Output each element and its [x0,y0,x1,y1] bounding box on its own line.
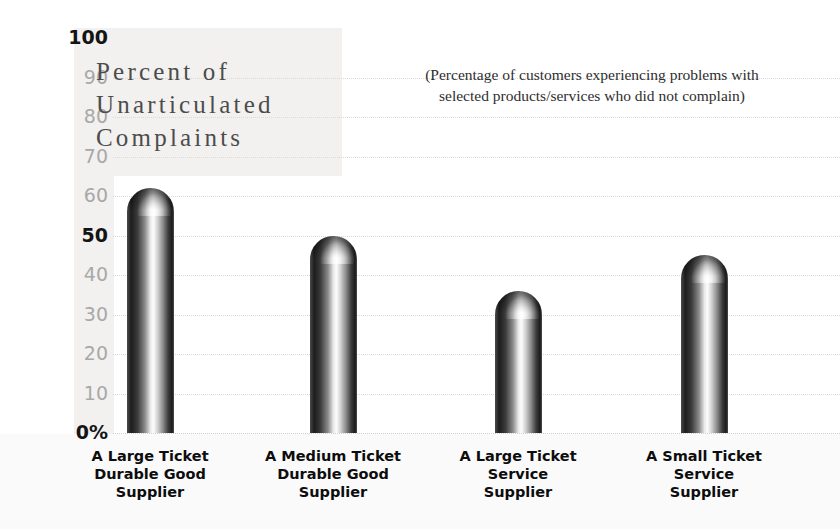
chart-title-line-2: Unarticulated [96,88,346,121]
bar-2 [310,236,357,434]
x-axis-label-1: A Large TicketDurable GoodSupplier [45,447,255,501]
x-axis-label-4-line-1: A Small Ticket [599,447,809,465]
bar-rounded-cap-3 [495,291,542,319]
x-axis-label-1-line-2: Durable Good [45,465,255,483]
bar-4 [681,255,728,433]
x-axis-label-3-line-3: Supplier [413,483,623,501]
x-axis-label-3-line-1: A Large Ticket [413,447,623,465]
gridline-70 [113,157,840,158]
x-axis-label-2-line-1: A Medium Ticket [228,447,438,465]
x-axis-label-3-line-2: Service [413,465,623,483]
y-axis-tick-0: 0% [62,423,108,442]
x-axis-label-4: A Small TicketServiceSupplier [599,447,809,501]
gridline-50 [113,236,840,237]
y-axis-tick-50: 50 [62,226,108,245]
chart-title: Percent of Unarticulated Complaints [96,55,346,154]
bar-rounded-cap-1 [127,188,174,216]
y-axis-tick-60: 60 [62,186,108,205]
y-axis-tick-10: 10 [62,384,108,403]
bar-rounded-cap-2 [310,236,357,264]
x-axis-label-4-line-2: Service [599,465,809,483]
x-axis-label-3: A Large TicketServiceSupplier [413,447,623,501]
y-axis-tick-30: 30 [62,305,108,324]
gridline-10 [113,394,840,395]
x-axis-label-4-line-3: Supplier [599,483,809,501]
bar-1 [127,188,174,433]
chart-title-line-3: Complaints [96,121,346,154]
x-axis-label-2: A Medium TicketDurable GoodSupplier [228,447,438,501]
gridline-0 [113,433,840,434]
chart-subtitle-line-2: selected products/services who did not c… [396,85,788,106]
gridline-30 [113,315,840,316]
gridline-60 [113,196,840,197]
chart-container: 1009080706050403020100% Percent of Unart… [0,0,840,529]
x-axis-label-1-line-3: Supplier [45,483,255,501]
x-axis-label-2-line-3: Supplier [228,483,438,501]
x-axis-label-1-line-1: A Large Ticket [45,447,255,465]
chart-title-line-1: Percent of [96,55,346,88]
bar-3 [495,291,542,433]
chart-subtitle: (Percentage of customers experiencing pr… [396,64,788,106]
y-axis-tick-20: 20 [62,344,108,363]
top-margin-band [0,0,840,28]
x-axis-label-2-line-2: Durable Good [228,465,438,483]
gridline-40 [113,275,840,276]
chart-subtitle-line-1: (Percentage of customers experiencing pr… [396,64,788,85]
gridline-20 [113,354,840,355]
y-axis-tick-100: 100 [62,28,108,47]
bar-rounded-cap-4 [681,255,728,283]
y-axis-tick-40: 40 [62,265,108,284]
